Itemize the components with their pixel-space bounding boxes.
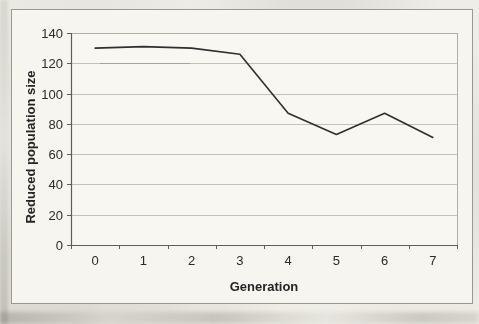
- plot-area: [72, 34, 458, 246]
- x-tick-label-0: 0: [92, 253, 99, 268]
- chart-figure: 02040608010012014001234567 Reduced popul…: [0, 0, 479, 324]
- scan-smudge-bottom: [0, 312, 479, 324]
- x-tick-label-5: 5: [333, 253, 340, 268]
- scan-smudge-left: [0, 0, 8, 324]
- x-axis-title: Generation: [230, 279, 299, 294]
- y-tick-label-60: 60: [49, 147, 63, 162]
- y-tick-label-20: 20: [49, 208, 63, 223]
- y-tick-label-120: 120: [41, 56, 63, 71]
- line-chart-canvas: 02040608010012014001234567: [0, 0, 479, 324]
- y-tick-label-40: 40: [49, 177, 63, 192]
- x-tick-label-4: 4: [285, 253, 292, 268]
- y-tick-label-80: 80: [49, 117, 63, 132]
- x-tick-label-7: 7: [429, 253, 436, 268]
- x-tick-label-3: 3: [236, 253, 243, 268]
- x-tick-label-1: 1: [140, 253, 147, 268]
- x-tick-label-2: 2: [188, 253, 195, 268]
- y-tick-label-140: 140: [41, 26, 63, 41]
- scanned-page: 02040608010012014001234567 Reduced popul…: [0, 0, 479, 324]
- y-axis-title: Reduced population size: [23, 70, 38, 223]
- y-tick-label-100: 100: [41, 87, 63, 102]
- y-tick-label-0: 0: [56, 238, 63, 253]
- x-tick-label-6: 6: [381, 253, 388, 268]
